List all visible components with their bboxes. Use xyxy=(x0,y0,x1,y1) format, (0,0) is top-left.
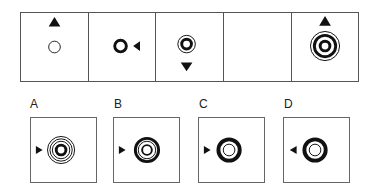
thick-ring-left-arrow-icon xyxy=(89,13,155,81)
option-label-b: B xyxy=(114,97,122,111)
option-label-d: D xyxy=(284,97,293,111)
option-d[interactable] xyxy=(283,117,350,183)
option-a[interactable] xyxy=(30,117,97,183)
sequence-strip xyxy=(20,12,359,82)
sequence-cell-4-blank xyxy=(224,13,292,81)
option-b-figure-icon xyxy=(114,118,179,182)
option-c[interactable] xyxy=(198,117,265,183)
sequence-cell-1 xyxy=(21,13,89,81)
option-c-figure-icon xyxy=(199,118,264,182)
option-label-c: C xyxy=(199,97,208,111)
thin-ring-up-arrow-icon xyxy=(21,13,88,81)
sequence-cell-5 xyxy=(292,13,360,81)
double-ring-down-arrow-icon xyxy=(156,13,223,81)
option-label-a: A xyxy=(30,97,38,111)
sequence-cell-2 xyxy=(89,13,156,81)
option-d-figure-icon xyxy=(284,118,349,182)
option-a-figure-icon xyxy=(31,118,96,182)
sequence-cell-3 xyxy=(156,13,224,81)
triple-ring-up-arrow-icon xyxy=(292,13,360,81)
option-b[interactable] xyxy=(113,117,180,183)
